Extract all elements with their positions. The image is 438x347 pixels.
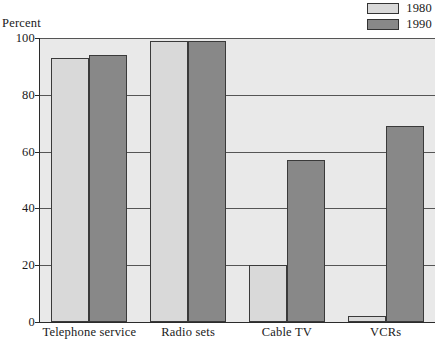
bar-1980-0 (51, 58, 89, 322)
y-tick-label-60: 60 (22, 144, 35, 159)
bar-1990-0 (89, 55, 127, 322)
plot-area: 020406080100Telephone serviceRadio setsC… (39, 38, 435, 323)
y-tick-label-40: 40 (22, 201, 35, 216)
category-label-2: Cable TV (262, 325, 312, 340)
bar-1980-1 (150, 41, 188, 322)
category-label-3: VCRs (370, 325, 401, 340)
bar-chart: 1980 1990 Percent 020406080100Telephone … (0, 0, 438, 347)
y-tick-mark-20 (35, 265, 40, 266)
bar-1990-3 (386, 126, 424, 322)
y-tick-label-100: 100 (16, 31, 35, 46)
y-tick-label-20: 20 (22, 258, 35, 273)
legend-label-1980: 1980 (406, 2, 432, 14)
y-tick-mark-80 (35, 95, 40, 96)
bar-1990-2 (287, 160, 325, 322)
legend-item-1980: 1980 (367, 2, 432, 14)
y-tick-mark-100 (35, 38, 40, 39)
y-axis-title: Percent (2, 16, 41, 31)
bar-1980-2 (249, 265, 287, 322)
gridline-100 (40, 38, 435, 39)
y-tick-label-0: 0 (29, 315, 35, 330)
legend-swatch-1980 (367, 3, 399, 14)
y-tick-mark-0 (35, 322, 40, 323)
category-label-0: Telephone service (42, 325, 136, 340)
legend-item-1990: 1990 (367, 18, 432, 30)
y-tick-mark-40 (35, 208, 40, 209)
bar-1990-1 (188, 41, 226, 322)
legend-swatch-1990 (367, 19, 399, 30)
y-tick-label-80: 80 (22, 87, 35, 102)
chart-legend: 1980 1990 (367, 2, 432, 30)
category-label-1: Radio sets (161, 325, 215, 340)
bar-1980-3 (348, 316, 386, 322)
legend-label-1990: 1990 (406, 18, 432, 30)
y-tick-mark-60 (35, 152, 40, 153)
